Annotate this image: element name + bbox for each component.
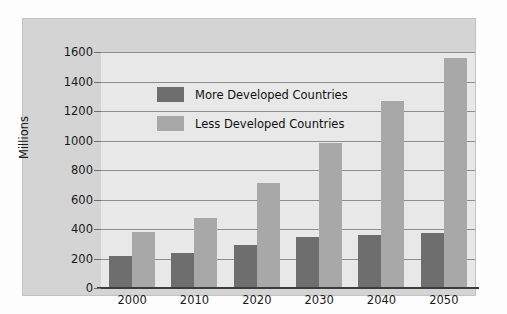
bar bbox=[171, 253, 194, 288]
x-axis-line bbox=[97, 287, 479, 289]
bar bbox=[257, 183, 280, 288]
y-axis-tick-label: 1600 bbox=[45, 45, 93, 59]
bar bbox=[358, 235, 381, 288]
x-axis-tick-label: 2050 bbox=[429, 293, 458, 307]
bar bbox=[296, 237, 319, 288]
legend-swatch-icon-less-developed bbox=[157, 116, 184, 131]
bar bbox=[381, 101, 404, 288]
y-axis-tick-mark bbox=[94, 259, 101, 260]
bar-group bbox=[350, 52, 412, 288]
y-axis-tick-label: 1200 bbox=[45, 104, 93, 118]
y-axis-tick-labels: 02004006008001000120014001600 bbox=[41, 52, 93, 288]
bar bbox=[319, 143, 342, 288]
x-axis-tick-label: 2010 bbox=[180, 293, 209, 307]
x-axis-tick-labels: 200020102020203020402050 bbox=[101, 293, 475, 313]
y-axis-tick-label: 800 bbox=[45, 163, 93, 177]
x-axis-tick-label: 2000 bbox=[118, 293, 147, 307]
chart-panel: Millions 02004006008001000120014001600 2… bbox=[22, 18, 476, 296]
chart-figure: Millions 02004006008001000120014001600 2… bbox=[0, 0, 507, 314]
bar-group bbox=[101, 52, 163, 288]
y-axis-tick-mark bbox=[94, 288, 101, 289]
legend-item-more-developed: More Developed Countries bbox=[157, 87, 348, 102]
y-axis-tick-label: 1400 bbox=[45, 75, 93, 89]
y-axis-tick-mark bbox=[94, 52, 101, 53]
bar bbox=[444, 58, 467, 288]
bar bbox=[132, 232, 155, 288]
y-axis-tick-mark bbox=[94, 82, 101, 83]
x-axis-tick-label: 2020 bbox=[242, 293, 271, 307]
legend-swatch-icon-more-developed bbox=[157, 87, 184, 102]
y-axis-tick-mark bbox=[94, 111, 101, 112]
y-axis-tick-label: 600 bbox=[45, 193, 93, 207]
legend-item-less-developed: Less Developed Countries bbox=[157, 116, 348, 131]
y-axis-tick-mark bbox=[94, 141, 101, 142]
y-axis-label: Millions bbox=[17, 116, 31, 159]
bar bbox=[234, 245, 257, 288]
y-axis-tick-label: 400 bbox=[45, 222, 93, 236]
y-axis-tick-mark bbox=[94, 229, 101, 230]
chart-legend: More Developed Countries Less Developed … bbox=[157, 87, 348, 145]
legend-label-more-developed: More Developed Countries bbox=[195, 88, 348, 102]
y-axis-tick-mark bbox=[94, 170, 101, 171]
bar-group bbox=[413, 52, 475, 288]
x-axis-tick-label: 2040 bbox=[367, 293, 396, 307]
bar bbox=[421, 233, 444, 288]
y-axis-tick-label: 200 bbox=[45, 252, 93, 266]
y-axis-tick-label: 0 bbox=[45, 281, 93, 295]
y-axis-tick-mark bbox=[94, 200, 101, 201]
y-axis-tick-label: 1000 bbox=[45, 134, 93, 148]
legend-label-less-developed: Less Developed Countries bbox=[195, 117, 344, 131]
x-axis-tick-label: 2030 bbox=[305, 293, 334, 307]
bar bbox=[194, 218, 217, 288]
bar bbox=[109, 256, 132, 288]
